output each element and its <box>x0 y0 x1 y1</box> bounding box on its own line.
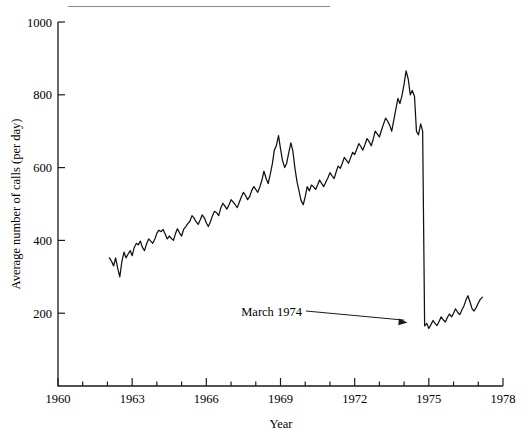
y-tick-label: 400 <box>33 234 52 248</box>
x-tick-label: 1969 <box>268 392 293 406</box>
x-tick-label: 1978 <box>491 392 516 406</box>
x-axis-ticks: 1960196319661969197219751978 <box>46 378 516 406</box>
x-tick-label: 1966 <box>194 392 219 406</box>
y-axis-title: Average number of calls (per day) <box>9 119 23 290</box>
y-tick-label: 200 <box>33 307 52 321</box>
y-tick-label: 800 <box>33 88 52 102</box>
figure-container: 2004006008001000 19601963196619691972197… <box>0 0 528 434</box>
x-axis-title: Year <box>269 417 293 431</box>
annotation-arrow-head <box>398 318 407 325</box>
y-tick-label: 600 <box>33 161 52 175</box>
x-tick-label: 1960 <box>46 392 71 406</box>
annotation-label: March 1974 <box>241 305 302 319</box>
x-tick-label: 1975 <box>416 392 441 406</box>
line-chart: 2004006008001000 19601963196619691972197… <box>0 0 528 434</box>
x-tick-label: 1972 <box>342 392 367 406</box>
data-series-line <box>109 71 482 329</box>
x-tick-label: 1963 <box>120 392 145 406</box>
axis-frame <box>58 22 503 386</box>
annotation-march-1974: March 1974 <box>241 305 407 325</box>
y-tick-label: 1000 <box>27 16 52 30</box>
y-axis-ticks: 2004006008001000 <box>27 16 65 321</box>
annotation-leader-line <box>306 311 404 320</box>
